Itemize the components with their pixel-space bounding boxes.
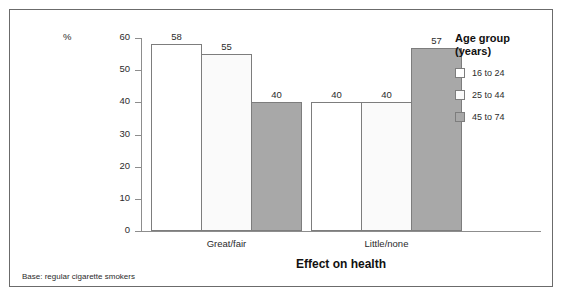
legend-item-label: 16 to 24 — [472, 68, 505, 78]
legend-item-label: 25 to 44 — [472, 90, 505, 100]
y-axis-tick-mark — [135, 231, 141, 232]
bar[interactable] — [251, 102, 302, 231]
bar-value-label: 40 — [311, 89, 362, 100]
legend-item[interactable]: 25 to 44 — [455, 89, 550, 101]
bar-value-label: 40 — [251, 89, 302, 100]
bar[interactable] — [311, 102, 362, 231]
x-axis-category-label: Great/fair — [151, 238, 302, 249]
legend-swatch-icon — [455, 112, 465, 122]
legend-title: Age group (years) — [455, 32, 550, 58]
bar[interactable] — [201, 54, 252, 231]
bar-value-label: 40 — [361, 89, 412, 100]
legend-swatch-icon — [455, 90, 465, 100]
bar[interactable] — [151, 44, 202, 231]
legend: Age group (years) 16 to 2425 to 4445 to … — [455, 32, 550, 133]
legend-swatch-icon — [455, 68, 465, 78]
plot-area: % 0102030405060 Great/fairLittle/none Ef… — [10, 10, 554, 288]
legend-items: 16 to 2425 to 4445 to 74 — [455, 67, 550, 123]
x-axis-category-label: Little/none — [311, 238, 462, 249]
legend-item-label: 45 to 74 — [472, 112, 505, 122]
x-axis-line — [141, 231, 541, 232]
legend-item[interactable]: 16 to 24 — [455, 67, 550, 79]
x-axis-title: Effect on health — [141, 257, 541, 271]
bar-value-label: 55 — [201, 41, 252, 52]
bar-value-label: 58 — [151, 31, 202, 42]
legend-item[interactable]: 45 to 74 — [455, 111, 550, 123]
y-axis-tick: 0 — [135, 231, 141, 232]
bar-value-label: 57 — [411, 35, 462, 46]
chart-figure-frame: % 0102030405060 Great/fairLittle/none Ef… — [9, 9, 553, 287]
base-note: Base: regular cigarette smokers — [22, 272, 135, 281]
bar[interactable] — [361, 102, 412, 231]
